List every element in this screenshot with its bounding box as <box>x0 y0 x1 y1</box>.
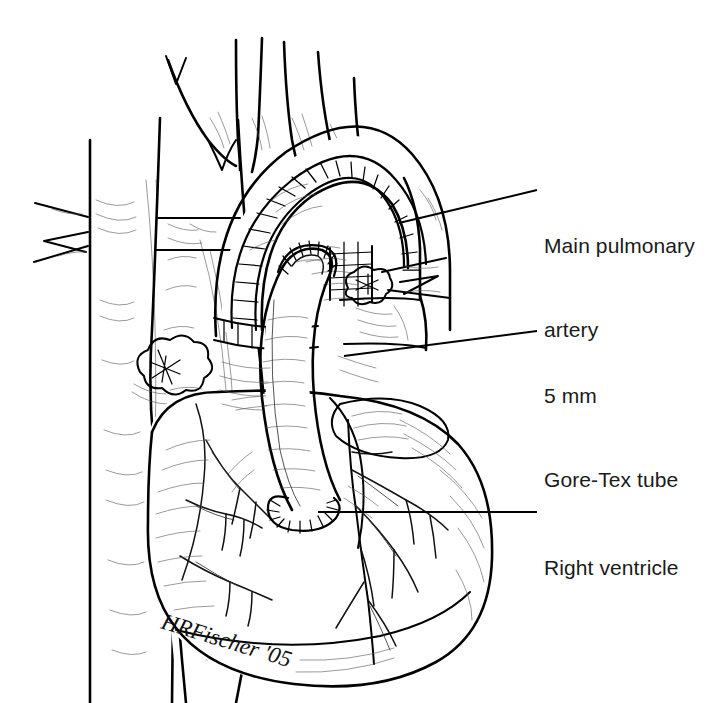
illustration-page: .ol { fill:none; stroke:#000; stroke-wid… <box>0 0 716 703</box>
label-right-ventricle: Right ventricle <box>544 498 679 638</box>
label-gore-tex-tube-line2: Gore-Tex tube <box>544 466 678 494</box>
label-main-pulmonary-artery-line1: Main pulmonary <box>544 232 695 260</box>
label-gore-tex-tube-line1: 5 mm <box>544 382 678 410</box>
label-right-ventricle-line1: Right ventricle <box>544 554 679 582</box>
